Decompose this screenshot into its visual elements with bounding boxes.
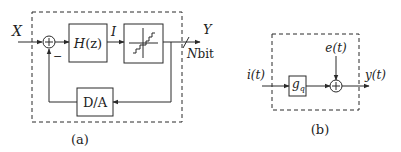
output-label-y: Y bbox=[203, 22, 213, 37]
input-label-it: i(t) bbox=[247, 68, 265, 82]
diagram-canvas: X − H(z) I Y Nbit bbox=[0, 0, 401, 152]
diagram-b: i(t) gq e(t) y(t) (b) bbox=[247, 34, 386, 137]
caption-a: (a) bbox=[71, 132, 89, 147]
summing-junction-b bbox=[330, 80, 342, 92]
noise-label-et: e(t) bbox=[325, 41, 347, 55]
bus-width-label: Nbit bbox=[186, 47, 214, 61]
filter-block-label: H(z) bbox=[73, 36, 102, 51]
caption-b: (b) bbox=[311, 122, 329, 137]
output-label-yt: y(t) bbox=[364, 68, 386, 82]
diagram-a: X − H(z) I Y Nbit bbox=[11, 12, 214, 147]
filter-output-label-i: I bbox=[110, 24, 117, 39]
summing-junction-a bbox=[43, 36, 55, 48]
dac-block-label: D/A bbox=[83, 95, 108, 110]
feedback-path-right bbox=[113, 42, 171, 102]
staircase-quantizer-icon bbox=[129, 28, 158, 58]
gain-block-label: gq bbox=[292, 77, 305, 93]
minus-sign: − bbox=[53, 50, 62, 63]
input-label-x: X bbox=[11, 23, 23, 39]
